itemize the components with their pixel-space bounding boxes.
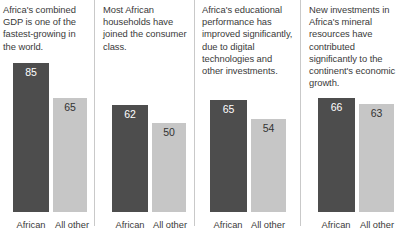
bar-african-4: 66 (318, 98, 355, 212)
bar-value-all-other-1: 65 (53, 98, 87, 113)
bar-all-other-3: 54 (251, 119, 286, 212)
chart-panel-4: New investments in Africa's mineral reso… (300, 0, 405, 241)
plot-area-3: 65 54 African All other (202, 79, 295, 241)
chart-panel-1: Africa's combined GDP is one of the fast… (0, 0, 94, 241)
bar-african-3: 65 (210, 100, 247, 212)
bar-african-1: 85 (13, 63, 49, 212)
bar-value-all-other-3: 54 (251, 119, 286, 134)
axis-label-all-other-2: All other (146, 219, 194, 231)
plot-area-2: 62 50 African All other (103, 55, 188, 241)
axis-labels-1: African All other (3, 217, 88, 231)
chart-panel-2: Most African households have joined the … (94, 0, 194, 241)
bar-african-2: 62 (112, 105, 148, 212)
bar-group-3: 65 54 (202, 50, 295, 212)
chart-panel-3: Africa's educational performance has imp… (194, 0, 300, 241)
axis-labels-3: African All other (202, 217, 295, 231)
bar-group-4: 66 63 (309, 62, 401, 212)
bar-value-all-other-4: 63 (359, 104, 394, 119)
bar-all-other-1: 65 (53, 98, 87, 212)
plot-area-4: 66 63 African All other (309, 91, 401, 241)
bar-value-african-2: 62 (112, 105, 148, 120)
bar-group-1: 85 65 (3, 26, 88, 212)
bar-all-other-4: 63 (359, 104, 394, 212)
axis-label-all-other-4: All other (353, 219, 401, 231)
axis-label-all-other-1: All other (48, 219, 96, 231)
axis-labels-2: African All other (103, 217, 188, 231)
small-multiples-bar-chart: Africa's combined GDP is one of the fast… (0, 0, 405, 241)
axis-labels-4: African All other (309, 217, 401, 231)
bar-value-african-3: 65 (210, 100, 247, 115)
bar-value-all-other-2: 50 (152, 123, 186, 138)
bar-group-2: 62 50 (103, 26, 188, 212)
bar-value-african-4: 66 (318, 98, 355, 113)
bar-all-other-2: 50 (152, 123, 186, 212)
bar-value-african-1: 85 (13, 63, 49, 78)
plot-area-1: 85 65 African All other (3, 55, 88, 241)
axis-label-all-other-3: All other (244, 219, 292, 231)
